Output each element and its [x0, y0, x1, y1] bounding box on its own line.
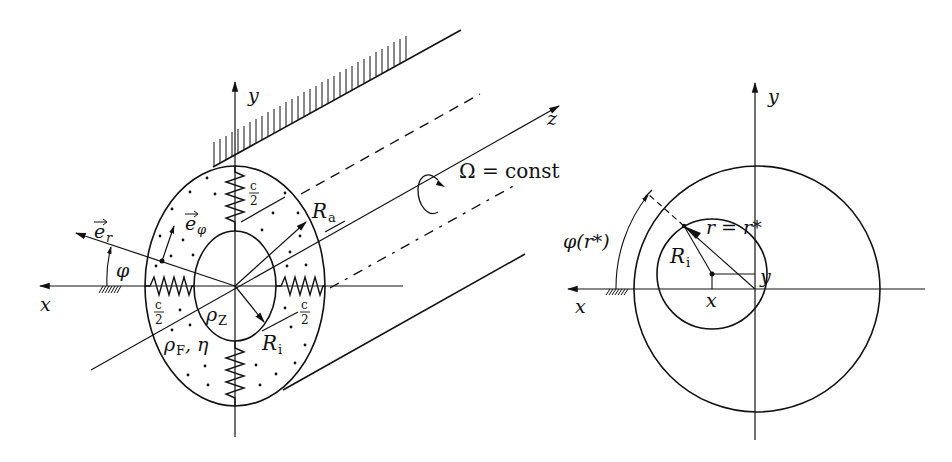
svg-text:R: R: [311, 199, 327, 223]
spring-label-top: c 2: [249, 179, 259, 208]
cylinder-bottom-edge: [283, 254, 525, 390]
rotation-label: Ω = const: [459, 159, 559, 183]
leader-line-top: [241, 197, 285, 222]
e-r-label: e r: [94, 219, 113, 245]
phi-angle-label: φ: [116, 259, 130, 281]
svg-text:c: c: [250, 179, 257, 193]
svg-text:c: c: [155, 298, 162, 312]
left-panel: y x z Ω = const e r e φ φ R a R i c 2: [40, 30, 559, 437]
inner-radius-label: R i: [261, 331, 282, 357]
phi-angle-arc: [107, 247, 111, 286]
phi-r-star-label: φ(r*): [563, 230, 610, 252]
svg-text:r: r: [106, 230, 113, 245]
svg-text:2: 2: [155, 313, 163, 327]
y-axis-label: y: [247, 84, 259, 106]
svg-text:ρ: ρ: [163, 333, 176, 355]
rotor-density-label: ρ Z: [205, 303, 227, 328]
svg-text:c: c: [301, 298, 308, 312]
svg-text:Z: Z: [218, 313, 227, 328]
svg-text:i: i: [686, 255, 690, 270]
journal-bearing-diagram: y x z Ω = const e r e φ φ R a R i c 2: [0, 0, 952, 462]
svg-text:i: i: [278, 342, 282, 357]
right-y-axis-label: y: [767, 85, 779, 107]
svg-text:R: R: [261, 331, 277, 355]
right-inner-radius-label: R i: [669, 244, 690, 270]
inner-radius-arrow: [235, 286, 264, 322]
fluid-properties-label: ρ F , η: [163, 333, 209, 358]
x-axis-label: x: [40, 293, 51, 315]
ground-hatch-right: [606, 289, 628, 295]
svg-text:e: e: [94, 220, 105, 242]
svg-text:F: F: [176, 343, 185, 358]
r-star-arrow-head: [684, 226, 701, 239]
leader-line-bottom: [262, 312, 298, 331]
svg-text:2: 2: [250, 194, 258, 208]
right-x-axis-label: x: [575, 295, 586, 317]
angle-reference-dashed: [648, 194, 684, 226]
rotation-arrow: [418, 175, 438, 214]
rotation-arrow-head: [436, 180, 445, 187]
inner-bottom-hidden-edge: [330, 184, 517, 288]
svg-text:2: 2: [301, 313, 309, 327]
svg-text:a: a: [328, 210, 336, 225]
spring-label-right: c 2: [300, 298, 310, 327]
offset-y-label: y: [759, 265, 771, 287]
r-equals-r-star-label: r = r*: [706, 216, 762, 238]
svg-text:ρ: ρ: [205, 303, 218, 325]
spring-label-left: c 2: [154, 298, 164, 327]
outer-radius-label: R a: [311, 199, 336, 225]
e-phi-label: e φ: [185, 211, 207, 237]
right-panel: y x φ(r*) r = r* R i x y: [563, 83, 925, 440]
inner-top-hidden-edge: [301, 94, 480, 194]
svg-text:, η: , η: [185, 333, 209, 355]
z-axis-label: z: [546, 107, 558, 129]
ground-hatch-left: [99, 286, 121, 293]
svg-text:R: R: [669, 244, 685, 268]
svg-text:e: e: [185, 212, 196, 234]
offset-x-label: x: [706, 289, 717, 311]
z-axis: [91, 106, 559, 370]
svg-text:φ: φ: [197, 222, 207, 237]
